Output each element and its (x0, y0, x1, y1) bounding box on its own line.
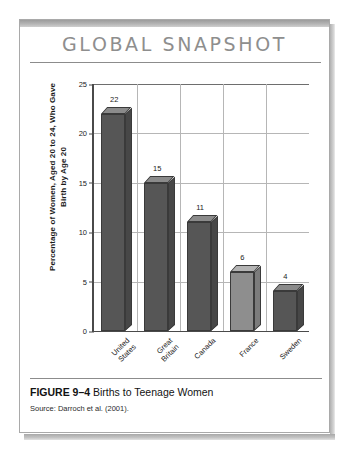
figure-page: GLOBAL SNAPSHOT Percentage of Women, Age… (0, 0, 349, 463)
figure-title-text: Births to Teenage Women (93, 386, 213, 398)
bar-value-label: 4 (283, 272, 287, 281)
bar-side-face (297, 285, 304, 331)
x-axis-tick-label: Canada (169, 336, 216, 383)
gridline-vertical (266, 84, 267, 331)
caption-source: Source: Darroch et al. (2001). (30, 404, 322, 413)
y-axis-tick-label: 15 (79, 178, 94, 187)
gridline-vertical (137, 84, 138, 331)
bar: 11 (187, 222, 211, 331)
bar-front-face (273, 291, 297, 331)
bar-front-face (144, 183, 168, 331)
card-top-band (20, 20, 329, 27)
bar-chart: Percentage of Women, Aged 20 to 24, Who … (20, 66, 331, 386)
snapshot-title: GLOBAL SNAPSHOT (20, 33, 329, 55)
bar: 4 (273, 291, 297, 331)
plot-area: 051015202522UnitedStates15GreatBritain11… (92, 84, 309, 332)
gridline-vertical (223, 84, 224, 331)
bar: 15 (144, 183, 168, 331)
y-axis-tick-label: 0 (83, 327, 94, 336)
y-axis-tick-label: 25 (79, 80, 94, 89)
bar-value-label: 11 (196, 203, 204, 212)
bar-side-face (168, 177, 175, 331)
bar-front-face (101, 114, 125, 331)
y-axis-tick-label: 10 (79, 228, 94, 237)
plot-top-border (94, 84, 309, 85)
bar: 6 (230, 272, 254, 331)
bar-value-label: 15 (153, 164, 161, 173)
global-snapshot-card: GLOBAL SNAPSHOT Percentage of Women, Age… (19, 19, 330, 433)
card-shadow-bottom (24, 434, 335, 440)
caption-divider (30, 378, 322, 379)
figure-caption: FIGURE 9–4 Births to Teenage Women Sourc… (30, 378, 322, 413)
bar-front-face (187, 222, 211, 331)
title-divider (30, 62, 321, 63)
figure-number: FIGURE 9–4 (30, 386, 90, 398)
bar: 22 (101, 114, 125, 331)
bar-side-face (211, 216, 218, 331)
x-axis-tick-label: Sweden (255, 336, 302, 383)
bar-front-face (230, 272, 254, 331)
bar-side-face (254, 265, 261, 331)
y-axis-tick-label: 5 (83, 277, 94, 286)
bar-side-face (125, 107, 132, 331)
gridline-vertical (180, 84, 181, 331)
bar-value-label: 22 (110, 95, 118, 104)
x-axis-tick-label: France (212, 336, 259, 383)
caption-title-line: FIGURE 9–4 Births to Teenage Women (30, 385, 322, 399)
y-axis-tick-label: 20 (79, 129, 94, 138)
y-axis-label: Percentage of Women, Aged 20 to 24, Who … (47, 77, 69, 277)
bar-value-label: 6 (240, 253, 244, 262)
